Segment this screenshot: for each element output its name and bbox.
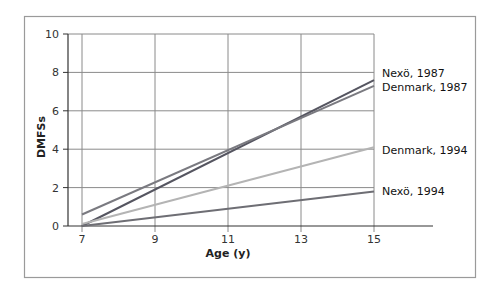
y-tick-label: 2 [52, 182, 59, 195]
series-label-denmark-1994: Denmark, 1994 [382, 144, 468, 157]
x-axis-title: Age (y) [206, 247, 251, 260]
x-tick-label: 9 [152, 233, 159, 246]
series-label-nexo-1994: Nexö, 1994 [382, 185, 445, 198]
x-tick-label: 13 [294, 233, 308, 246]
y-tick-label: 0 [52, 220, 59, 233]
x-tick-label: 7 [79, 233, 86, 246]
y-tick-label: 6 [52, 105, 59, 118]
x-tick-label: 15 [367, 233, 381, 246]
x-tick-label: 11 [221, 233, 235, 246]
y-tick-label: 10 [45, 28, 59, 41]
y-tick-label: 8 [52, 66, 59, 79]
y-axis-title: DMFSs [35, 116, 48, 159]
line-chart: 0246810 79111315 DMFSs Age (y) Nexö, 198… [0, 0, 495, 287]
series-label-nexo-1987: Nexö, 1987 [382, 67, 445, 80]
series-label-denmark-1987: Denmark, 1987 [382, 81, 468, 94]
y-tick-label: 4 [52, 143, 59, 156]
